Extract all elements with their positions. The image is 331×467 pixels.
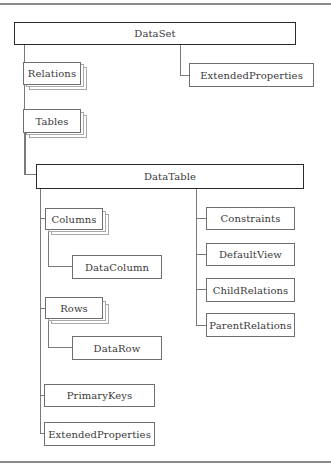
dataset-extendedproperties-label: ExtendedProperties — [200, 70, 303, 81]
connector-rows-trunk — [48, 318, 49, 348]
connector-datacolumn — [48, 266, 73, 267]
connector-tables-trunk — [25, 133, 26, 175]
rows-node: Rows — [45, 297, 103, 319]
datacolumn-node: DataColumn — [72, 255, 162, 279]
primarykeys-label: PrimaryKeys — [67, 390, 133, 401]
datarow-label: DataRow — [94, 343, 141, 354]
datatable-extendedproperties-label: ExtendedProperties — [48, 429, 151, 440]
tables-node: Tables — [23, 109, 81, 133]
childrelations-node: ChildRelations — [206, 278, 295, 302]
constraints-node: Constraints — [206, 207, 295, 230]
defaultview-node: DefaultView — [206, 243, 295, 266]
datatable-label: DataTable — [144, 171, 196, 182]
defaultview-label: DefaultView — [219, 249, 282, 260]
dataset-label: DataSet — [134, 28, 175, 39]
connector-datarow — [48, 347, 73, 348]
datarow-node: DataRow — [72, 336, 162, 360]
dataset-node: DataSet — [14, 22, 296, 45]
datatable-node: DataTable — [36, 164, 304, 189]
relations-label: Relations — [28, 68, 76, 79]
relations-node: Relations — [23, 62, 81, 85]
connector-columns-trunk — [48, 229, 49, 267]
connector-datatable-right-trunk — [196, 188, 197, 326]
rows-label: Rows — [60, 303, 88, 314]
top-rule — [0, 3, 331, 5]
primarykeys-node: PrimaryKeys — [44, 384, 155, 407]
datatable-extendedproperties-node: ExtendedProperties — [44, 422, 155, 446]
columns-label: Columns — [51, 214, 96, 225]
dataset-extendedproperties-node: ExtendedProperties — [189, 63, 314, 87]
connector-datatable-left-trunk — [40, 188, 41, 434]
bottom-rule — [0, 461, 331, 463]
connector-ext-trunk — [180, 44, 181, 76]
childrelations-label: ChildRelations — [213, 285, 289, 296]
parentrelations-node: ParentRelations — [206, 313, 295, 337]
datacolumn-label: DataColumn — [85, 262, 149, 273]
tables-label: Tables — [35, 116, 68, 127]
columns-node: Columns — [45, 208, 103, 230]
parentrelations-label: ParentRelations — [209, 320, 291, 331]
constraints-label: Constraints — [221, 213, 281, 224]
